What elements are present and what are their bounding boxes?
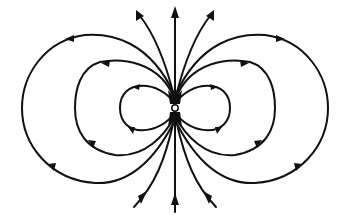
open-lines-bottom [134, 120, 216, 212]
field-lines-canvas [0, 0, 346, 219]
dipole-diagram: Magnetic dipole field lines [0, 0, 346, 219]
open-lines-top [136, 6, 214, 96]
dipole-center-icon [172, 105, 178, 111]
